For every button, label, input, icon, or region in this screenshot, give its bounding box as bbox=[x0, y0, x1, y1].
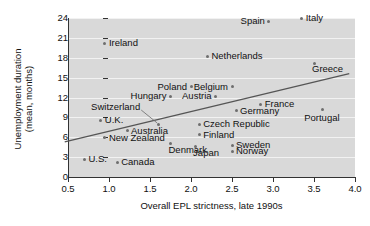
leader-line bbox=[141, 110, 157, 123]
x-tick-label: 1.0 bbox=[92, 184, 126, 194]
x-tick-mark bbox=[273, 177, 274, 182]
y-tick-mark bbox=[103, 18, 108, 19]
y-tick-label: 18 bbox=[48, 53, 68, 63]
data-point-label: U.S. bbox=[88, 154, 106, 164]
data-point bbox=[235, 109, 238, 112]
data-point-label: Portugal bbox=[304, 113, 339, 123]
data-point bbox=[116, 161, 119, 164]
data-point-label: Ireland bbox=[109, 38, 138, 48]
data-point bbox=[231, 150, 234, 153]
data-point-label: Czech Republic bbox=[203, 119, 270, 129]
data-point bbox=[231, 144, 234, 147]
data-point-label: Switzerland bbox=[91, 102, 140, 112]
y-tick-mark bbox=[103, 38, 108, 39]
data-point-label: Hungary bbox=[131, 91, 167, 101]
x-axis-title: Overall EPL strictness, late 1990s bbox=[68, 200, 355, 211]
data-point bbox=[198, 123, 201, 126]
data-point bbox=[321, 108, 324, 111]
x-tick-mark bbox=[232, 177, 233, 182]
data-point-label: Japan bbox=[193, 148, 219, 158]
data-point bbox=[169, 95, 172, 98]
y-tick-label: 9 bbox=[48, 112, 68, 122]
data-point bbox=[214, 95, 217, 98]
y-tick-label: 15 bbox=[48, 73, 68, 83]
scatter-chart-figure: 03691215182124 0.51.01.52.02.53.03.54.0 … bbox=[0, 0, 370, 226]
data-point-label: Netherlands bbox=[211, 51, 262, 61]
data-point-label: U.K. bbox=[105, 115, 123, 125]
data-point-label: Spain bbox=[241, 16, 265, 26]
y-axis-title: Unemployment duration (mean, months) bbox=[12, 24, 34, 174]
data-point-label: Norway bbox=[236, 146, 268, 156]
data-point bbox=[99, 119, 102, 122]
data-point bbox=[206, 55, 209, 58]
data-point-label: Austria bbox=[182, 91, 212, 101]
x-tick-label: 3.0 bbox=[256, 184, 290, 194]
y-tick-label: 0 bbox=[48, 172, 68, 182]
y-tick-label: 24 bbox=[48, 13, 68, 23]
data-point-label: New Zealand bbox=[109, 133, 165, 143]
x-tick-label: 4.0 bbox=[338, 184, 370, 194]
x-tick-label: 1.5 bbox=[133, 184, 167, 194]
data-point-label: Italy bbox=[306, 13, 323, 23]
x-tick-mark bbox=[109, 177, 110, 182]
x-tick-label: 2.0 bbox=[174, 184, 208, 194]
y-tick-mark bbox=[103, 78, 108, 79]
data-point bbox=[198, 133, 201, 136]
y-axis-title-line2: (mean, months) bbox=[23, 24, 34, 174]
x-tick-label: 3.5 bbox=[297, 184, 331, 194]
x-tick-mark bbox=[68, 177, 69, 182]
x-tick-mark bbox=[314, 177, 315, 182]
y-tick-mark bbox=[103, 177, 108, 178]
y-tick-label: 21 bbox=[48, 33, 68, 43]
y-axis-title-line1: Unemployment duration bbox=[12, 24, 23, 174]
x-tick-mark bbox=[191, 177, 192, 182]
data-point-label: Canada bbox=[121, 157, 154, 167]
y-tick-label: 6 bbox=[48, 132, 68, 142]
data-point bbox=[300, 17, 303, 20]
y-tick-label: 12 bbox=[48, 93, 68, 103]
data-point-label: Germany bbox=[240, 106, 279, 116]
data-point-label: Greece bbox=[312, 64, 343, 74]
x-tick-mark bbox=[150, 177, 151, 182]
y-tick-label: 3 bbox=[48, 152, 68, 162]
x-tick-label: 2.5 bbox=[215, 184, 249, 194]
y-tick-mark bbox=[103, 98, 108, 99]
x-tick-mark bbox=[355, 177, 356, 182]
data-point-label: Finland bbox=[203, 130, 234, 140]
data-point bbox=[83, 158, 86, 161]
x-tick-label: 0.5 bbox=[51, 184, 85, 194]
y-tick-mark bbox=[103, 58, 108, 59]
